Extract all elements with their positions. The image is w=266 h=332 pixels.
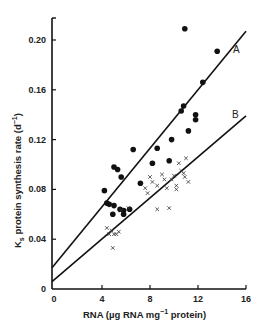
dot-point (130, 147, 136, 153)
cross-point (167, 206, 171, 210)
dot-point (106, 202, 112, 208)
cross-point (170, 178, 174, 182)
dot-point (169, 137, 175, 143)
dot-point (118, 174, 124, 180)
x-tick-label: 0 (51, 294, 56, 304)
cross-point (175, 188, 179, 192)
y-tick-label: 0.20 (28, 35, 46, 45)
y-tick-label: 0.04 (28, 234, 46, 244)
cross-point (146, 191, 150, 195)
cross-point (160, 173, 164, 177)
cross-point (187, 180, 191, 184)
dot-point (121, 212, 127, 218)
y-tick-label: 0.12 (28, 135, 46, 145)
x-tick-label: 8 (147, 294, 152, 304)
cross-point (182, 171, 186, 175)
dot-point (193, 112, 199, 118)
dot-point (111, 203, 117, 209)
cross-point (151, 180, 155, 184)
dot-point (166, 158, 172, 164)
x-tick-label: 4 (99, 294, 104, 304)
cross-point (184, 156, 188, 160)
dot-point (102, 188, 108, 194)
dot-point (154, 146, 160, 152)
dot-point (110, 212, 116, 218)
dot-point (182, 26, 188, 32)
cross-point (155, 184, 159, 188)
cross-point (165, 186, 169, 190)
cross-point (143, 186, 147, 190)
regression-line-b (52, 116, 246, 282)
dot-point (150, 160, 156, 166)
cross-point (183, 175, 187, 179)
scatter-chart: 00.040.080.120.160.200481216 A B RNA (µg… (0, 0, 266, 332)
dot-point (138, 180, 144, 186)
cross-point (105, 226, 109, 230)
dot-point (214, 48, 220, 54)
data-points (102, 26, 220, 250)
cross-point (163, 178, 167, 182)
dot-point (193, 117, 199, 123)
regression-line-a (52, 31, 246, 268)
cross-point (117, 230, 121, 234)
y-tick-label: 0.08 (28, 184, 46, 194)
dot-point (178, 108, 184, 114)
y-tick-label: 0.16 (28, 85, 46, 95)
dot-point (200, 80, 206, 86)
cross-point (175, 184, 179, 188)
cross-point (111, 246, 115, 250)
x-axis-title: RNA (µg RNA mg−1 protein) (83, 308, 206, 320)
dot-point (186, 128, 192, 134)
x-tick-label: 16 (241, 294, 251, 304)
line-b-label: B (232, 109, 239, 120)
dot-point (181, 103, 187, 109)
y-tick-label: 0 (41, 284, 46, 294)
x-tick-label: 12 (193, 294, 203, 304)
regression-lines (52, 31, 246, 281)
dot-point (115, 167, 121, 173)
y-axis-title: Ks protein synthesis rate (d−1) (11, 113, 25, 248)
cross-point (177, 161, 181, 165)
cross-point (148, 175, 152, 179)
cross-point (155, 208, 159, 212)
line-a-label: A (233, 44, 240, 55)
